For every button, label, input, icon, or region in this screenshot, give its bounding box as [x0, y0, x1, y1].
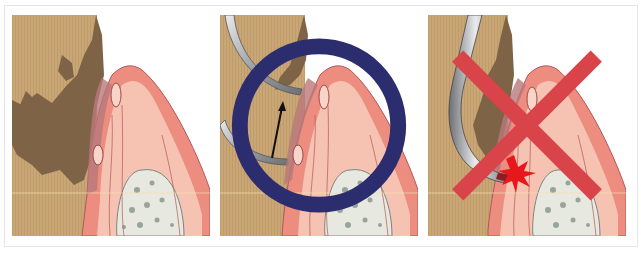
- panel-incorrect-technique: [428, 15, 626, 236]
- tooth-illustration: [12, 15, 210, 236]
- incorrect-cross-icon: [428, 15, 626, 236]
- panel-calculus: [12, 15, 210, 236]
- correct-circle-icon: [220, 15, 418, 236]
- panel-correct-technique: [220, 15, 418, 236]
